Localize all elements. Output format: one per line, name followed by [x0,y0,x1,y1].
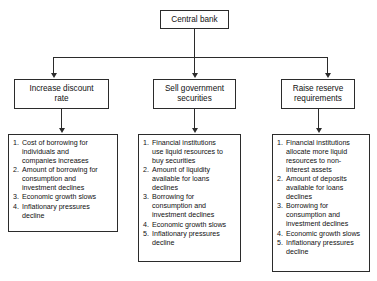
list-item-number: 5. [277,239,286,248]
list-item-text: Economic growth slows [286,230,366,239]
list-item-text: Economic growth slows [22,193,114,202]
list-item-number: 1. [13,139,22,148]
node-consequences-increase-discount-rate[interactable]: 1.Cost of borrowing for individuals and … [8,134,118,232]
flowchart-canvas: Central bank Increase discount rate Sell… [0,0,377,281]
connector-action-0-to-list-0 [61,109,62,129]
list-item-number: 5. [143,230,152,239]
list-item-number: 2. [143,166,152,175]
node-action-sell-government-securities[interactable]: Sell government securities [153,79,236,109]
connector-bus-drop-middle [194,57,195,74]
arrowhead-to-action-1 [192,73,198,78]
connector-action-1-to-list-1 [194,109,195,129]
list-item-text: Borrowing for consumption and investment… [152,193,237,220]
list-item: 2.Amount of borrowing for consumption an… [13,166,114,193]
list-item-text: Inflationary pressures decline [22,203,114,221]
connector-root-stem [194,29,195,57]
list-item-number: 2. [13,166,22,175]
node-action-increase-discount-rate[interactable]: Increase discount rate [14,79,109,109]
list-item-number: 4. [13,203,22,212]
node-consequences-sell-government-securities[interactable]: 1.Financial institutions use liquid reso… [138,134,241,262]
list-item-text: Inflationary pressures decline [286,239,366,257]
list-item: 3.Borrowing for consumption and investme… [143,193,237,220]
node-central-bank[interactable]: Central bank [160,10,229,29]
connector-bus-drop-right [327,57,328,74]
list-item: 5.Inflationary pressures decline [277,239,366,257]
list-item-number: 4. [143,221,152,230]
list-item-number: 3. [143,193,152,202]
consequence-list-2: 1.Financial institutions allocate more l… [277,139,366,257]
list-item: 4.Inflationary pressures decline [13,203,114,221]
list-item-number: 2. [277,175,286,184]
list-item: 1.Cost of borrowing for individuals and … [13,139,114,166]
list-item-text: Financial institutions use liquid resour… [152,139,237,166]
list-item: 5.Inflationary pressures decline [143,230,237,248]
list-item-number: 3. [277,202,286,211]
list-item: 3.Borrowing for consumption and investme… [277,202,366,229]
list-item: 2.Amount of deposits available for loans… [277,175,366,202]
consequence-list-1: 1.Financial institutions use liquid reso… [143,139,237,248]
list-item: 1.Financial institutions use liquid reso… [143,139,237,166]
list-item-text: Amount of liquidity available for loans … [152,166,237,193]
list-item-text: Borrowing for consumption and investment… [286,202,366,229]
list-item-text: Inflationary pressures decline [152,230,237,248]
connector-horizontal-bus [53,57,328,58]
arrowhead-to-action-2 [325,73,331,78]
list-item-number: 4. [277,230,286,239]
list-item: 3.Economic growth slows [13,193,114,202]
list-item: 2.Amount of liquidity available for loan… [143,166,237,193]
list-item-text: Financial institutions allocate more liq… [286,139,366,175]
connector-action-2-to-list-2 [318,109,319,129]
node-consequences-raise-reserve-requirements[interactable]: 1.Financial institutions allocate more l… [272,134,370,272]
arrowhead-to-list-0 [59,128,65,133]
list-item-text: Economic growth slows [152,221,237,230]
list-item: 1.Financial institutions allocate more l… [277,139,366,175]
node-action-raise-reserve-requirements[interactable]: Raise reserve requirements [281,79,355,109]
consequence-list-0: 1.Cost of borrowing for individuals and … [13,139,114,221]
list-item-number: 3. [13,193,22,202]
list-item-text: Cost of borrowing for individuals and co… [22,139,114,166]
list-item-text: Amount of borrowing for consumption and … [22,166,114,193]
arrowhead-to-list-1 [192,128,198,133]
list-item-number: 1. [277,139,286,148]
list-item-number: 1. [143,139,152,148]
connector-bus-drop-left [53,57,54,74]
list-item: 4.Economic growth slows [277,230,366,239]
list-item-text: Amount of deposits available for loans d… [286,175,366,202]
list-item: 4.Economic growth slows [143,221,237,230]
arrowhead-to-action-0 [51,73,57,78]
arrowhead-to-list-2 [316,128,322,133]
